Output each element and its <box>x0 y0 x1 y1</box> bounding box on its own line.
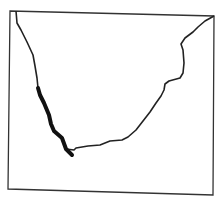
map-frame <box>8 11 214 195</box>
coastline <box>16 11 214 150</box>
highlighted-coast-segment <box>38 88 72 155</box>
map-canvas <box>0 0 216 209</box>
